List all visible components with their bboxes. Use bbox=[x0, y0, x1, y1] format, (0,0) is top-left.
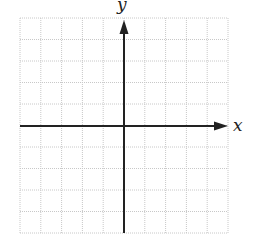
x-axis-label: x bbox=[233, 115, 243, 135]
x-axis-arrow-icon bbox=[214, 122, 228, 131]
coordinate-plane: x y bbox=[0, 0, 254, 246]
y-axis-label: y bbox=[116, 0, 127, 14]
y-axis-arrow-icon bbox=[120, 20, 129, 34]
